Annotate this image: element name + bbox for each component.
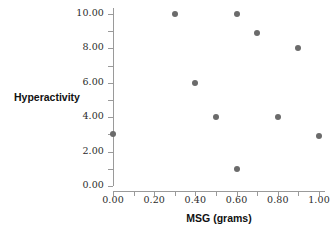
data-point xyxy=(110,131,116,137)
y-tick xyxy=(108,14,113,15)
y-tick xyxy=(108,83,113,84)
x-tick-label: 0.00 xyxy=(93,194,133,205)
y-tick xyxy=(108,48,113,49)
y-tick-label: 4.00 xyxy=(58,110,104,121)
y-tick-label: 2.00 xyxy=(58,145,104,156)
x-tick-label: 0.60 xyxy=(217,194,257,205)
data-point xyxy=(254,30,260,36)
y-tick xyxy=(108,117,113,118)
y-tick xyxy=(108,169,113,170)
x-axis-title: MSG (grams) xyxy=(113,212,325,224)
y-tick xyxy=(108,66,113,67)
y-tick xyxy=(108,152,113,153)
data-point xyxy=(172,11,178,17)
data-point xyxy=(275,114,281,120)
y-tick-label: 0.00 xyxy=(58,179,104,190)
x-tick-label: 1.00 xyxy=(299,194,333,205)
x-axis-line xyxy=(113,191,325,192)
x-tick-label: 0.20 xyxy=(134,194,174,205)
data-point xyxy=(234,11,240,17)
y-axis-title: Hyperactivity xyxy=(14,91,80,103)
plot-area: 0.002.004.006.008.0010.00 0.000.200.400.… xyxy=(113,14,319,186)
data-point xyxy=(213,114,219,120)
x-tick-label: 0.40 xyxy=(175,194,215,205)
y-tick-label: 10.00 xyxy=(58,7,104,18)
data-point xyxy=(295,45,301,51)
y-axis-line xyxy=(113,8,114,186)
y-tick xyxy=(108,186,113,187)
data-point xyxy=(192,80,198,86)
scatter-plot-figure: 0.002.004.006.008.0010.00 0.000.200.400.… xyxy=(0,0,333,237)
y-tick xyxy=(108,31,113,32)
y-tick-label: 6.00 xyxy=(58,76,104,87)
y-tick-label: 8.00 xyxy=(58,41,104,52)
x-tick-label: 0.80 xyxy=(258,194,298,205)
data-point xyxy=(316,133,322,139)
data-point xyxy=(234,166,240,172)
y-tick xyxy=(108,100,113,101)
